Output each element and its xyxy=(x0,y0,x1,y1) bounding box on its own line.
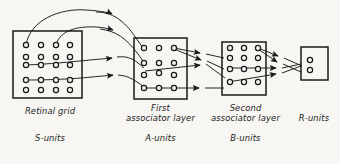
connection-br-1 xyxy=(258,48,278,56)
unit-circle xyxy=(227,55,232,60)
unit-circle xyxy=(67,42,72,47)
unit-circle xyxy=(241,66,246,71)
label-first-associator-line1: First xyxy=(113,104,208,113)
unit-circle xyxy=(255,45,260,50)
label-b-units: B-units xyxy=(198,134,293,143)
unit-circle xyxy=(241,79,246,84)
unit-circle xyxy=(53,62,58,67)
unit-circle xyxy=(156,70,161,75)
unit-circle xyxy=(141,85,146,90)
unit-circle xyxy=(141,45,146,50)
connections-a-to-b xyxy=(145,48,225,88)
unit-circle xyxy=(255,79,260,84)
units-r-units xyxy=(307,57,312,72)
unit-circle xyxy=(67,54,72,59)
unit-circle xyxy=(38,87,43,92)
unit-circle xyxy=(227,79,232,84)
unit-circle xyxy=(227,66,232,71)
unit-circle xyxy=(53,87,58,92)
label-s-units: S-units xyxy=(0,134,100,143)
label-r-units-title: R-units xyxy=(288,114,340,123)
label-a-units: A-units xyxy=(113,134,208,143)
unit-circle xyxy=(23,62,28,67)
unit-circle xyxy=(23,87,28,92)
unit-circle xyxy=(67,62,72,67)
unit-circle xyxy=(141,60,146,65)
unit-circle xyxy=(53,54,58,59)
unit-circle xyxy=(38,77,43,82)
connections-s-to-a xyxy=(26,10,144,86)
unit-circle xyxy=(227,45,232,50)
unit-circle xyxy=(141,72,146,77)
unit-circle xyxy=(38,62,43,67)
units-second-associator-layer xyxy=(227,45,260,84)
units-retinal-grid xyxy=(23,42,72,92)
unit-circle xyxy=(23,77,28,82)
connection-br-2-tail xyxy=(283,64,301,72)
unit-circle xyxy=(23,54,28,59)
label-first-associator-line2: associator layer xyxy=(113,114,208,123)
box-r-units xyxy=(301,47,328,80)
unit-circle xyxy=(23,42,28,47)
connection-ab-3 xyxy=(145,65,200,71)
unit-circle xyxy=(53,77,58,82)
unit-circle xyxy=(241,55,246,60)
unit-circle xyxy=(38,54,43,59)
connection-straight-3-tail xyxy=(117,57,144,68)
figure-canvas: Retinal grid S-units First associator la… xyxy=(0,0,340,164)
connection-br-2 xyxy=(258,49,277,62)
unit-circle xyxy=(156,45,161,50)
unit-circle xyxy=(38,42,43,47)
unit-circle xyxy=(307,57,312,62)
connections-b-to-r xyxy=(228,48,302,82)
connection-straight-4-tail xyxy=(118,75,143,86)
layer-boxes xyxy=(13,31,328,99)
label-retinal-grid-title: Retinal grid xyxy=(0,107,100,116)
unit-circle xyxy=(171,72,176,77)
unit-circle xyxy=(156,85,161,90)
unit-circle xyxy=(156,60,161,65)
unit-circle xyxy=(67,87,72,92)
unit-circle xyxy=(307,67,312,72)
unit-circle xyxy=(53,42,58,47)
label-second-associator-line2: associator layer xyxy=(198,114,293,123)
connection-br-4 xyxy=(228,74,276,82)
unit-circle xyxy=(255,55,260,60)
label-second-associator-line1: Second xyxy=(198,104,293,113)
unit-circle xyxy=(255,66,260,71)
unit-circle xyxy=(171,45,176,50)
unit-circle xyxy=(67,77,72,82)
unit-circle xyxy=(241,45,246,50)
unit-circle xyxy=(171,85,176,90)
connection-arc-2-tail xyxy=(100,29,144,63)
unit-circle xyxy=(171,60,176,65)
